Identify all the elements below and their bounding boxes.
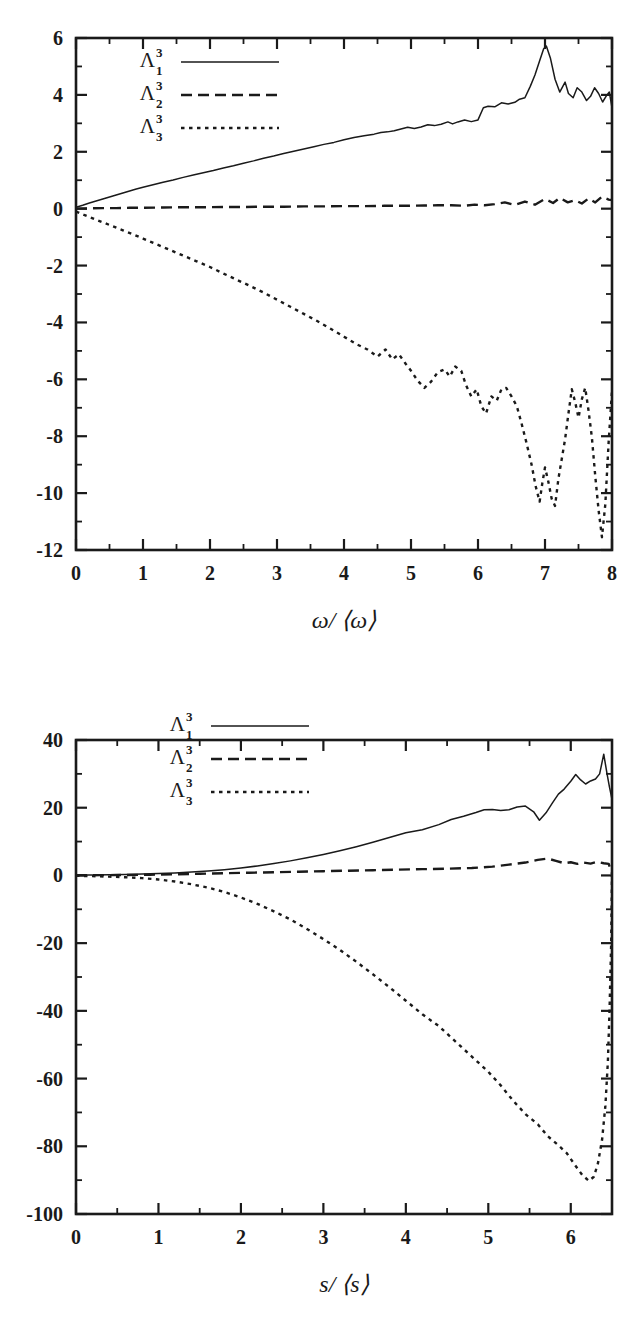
y-tick-label: -80 <box>36 1135 63 1157</box>
legend-symbol-3: Λ33 <box>170 775 193 808</box>
y-tick-label: -4 <box>46 311 63 333</box>
y-tick-label: -100 <box>26 1203 63 1225</box>
x-tick-label: 5 <box>483 1226 493 1248</box>
x-tick-label: 1 <box>138 562 148 584</box>
x-axis-title: ω/ ⟨ω⟩ <box>312 607 378 633</box>
x-tick-label: 3 <box>272 562 282 584</box>
svg-text:2: 2 <box>186 760 193 775</box>
x-tick-label: 6 <box>566 1226 576 1248</box>
y-tick-label: 4 <box>53 84 63 106</box>
x-tick-label: 0 <box>71 1226 81 1248</box>
y-tick-label: -8 <box>46 425 63 447</box>
x-tick-label: 0 <box>71 562 81 584</box>
legend-symbol-2: Λ32 <box>140 78 163 111</box>
y-tick-label: 6 <box>53 27 63 49</box>
x-tick-label: 2 <box>205 562 215 584</box>
svg-text:3: 3 <box>156 111 163 126</box>
svg-text:3: 3 <box>156 45 163 60</box>
series-line-2 <box>76 859 612 876</box>
legend: Λ31Λ32Λ33 <box>170 709 309 808</box>
y-tick-label: -12 <box>36 539 63 561</box>
chart-panel-top: 0123456786420-2-4-6-8-10-12Λ31Λ32Λ33ω/ ⟨… <box>0 0 633 664</box>
svg-text:1: 1 <box>156 63 163 78</box>
svg-text:1: 1 <box>186 727 193 742</box>
legend-symbol-3: Λ33 <box>140 111 163 144</box>
x-axis-title: s/ ⟨s⟩ <box>319 1271 369 1297</box>
plot-top: 0123456786420-2-4-6-8-10-12Λ31Λ32Λ33ω/ ⟨… <box>0 0 633 664</box>
svg-text:2: 2 <box>156 96 163 111</box>
chart-panel-bottom: 012345640200-20-40-60-80-100Λ31Λ32Λ33s/ … <box>0 664 633 1328</box>
legend-symbol-1: Λ31 <box>170 709 193 742</box>
figure-root: 0123456786420-2-4-6-8-10-12Λ31Λ32Λ33ω/ ⟨… <box>0 0 633 1328</box>
y-tick-label: -10 <box>36 482 63 504</box>
x-tick-label: 5 <box>406 562 416 584</box>
y-tick-label: -40 <box>36 1000 63 1022</box>
legend: Λ31Λ32Λ33 <box>140 45 279 144</box>
x-tick-label: 8 <box>607 562 617 584</box>
svg-text:3: 3 <box>186 709 193 724</box>
svg-text:3: 3 <box>156 78 163 93</box>
x-tick-label: 4 <box>401 1226 411 1248</box>
x-tick-label: 4 <box>339 562 349 584</box>
series-line-3 <box>76 212 612 538</box>
y-tick-label: 40 <box>43 729 63 751</box>
x-tick-label: 7 <box>540 562 550 584</box>
x-tick-label: 1 <box>153 1226 163 1248</box>
svg-text:Λ: Λ <box>140 48 156 72</box>
svg-text:3: 3 <box>186 775 193 790</box>
x-tick-label: 2 <box>236 1226 246 1248</box>
y-tick-label: -20 <box>36 932 63 954</box>
svg-text:Λ: Λ <box>170 778 186 802</box>
legend-symbol-1: Λ31 <box>140 45 163 78</box>
series-line-3 <box>76 875 612 1180</box>
svg-text:3: 3 <box>186 793 193 808</box>
y-tick-label: -2 <box>46 255 63 277</box>
series-group <box>76 754 612 1181</box>
y-tick-label: 0 <box>53 864 63 886</box>
y-tick-label: 2 <box>53 141 63 163</box>
plot-bottom: 012345640200-20-40-60-80-100Λ31Λ32Λ33s/ … <box>0 664 633 1328</box>
x-tick-label: 6 <box>473 562 483 584</box>
legend-symbol-2: Λ32 <box>170 742 193 775</box>
x-tick-label: 3 <box>318 1226 328 1248</box>
series-line-2 <box>76 197 612 209</box>
series-line-1 <box>76 754 612 875</box>
svg-text:Λ: Λ <box>140 114 156 138</box>
y-tick-label: -60 <box>36 1068 63 1090</box>
y-tick-label: -6 <box>46 368 63 390</box>
svg-text:3: 3 <box>186 742 193 757</box>
y-tick-label: 0 <box>53 198 63 220</box>
y-tick-label: 20 <box>43 797 63 819</box>
svg-text:Λ: Λ <box>170 745 186 769</box>
svg-text:Λ: Λ <box>140 81 156 105</box>
svg-text:3: 3 <box>156 129 163 144</box>
svg-text:Λ: Λ <box>170 712 186 736</box>
